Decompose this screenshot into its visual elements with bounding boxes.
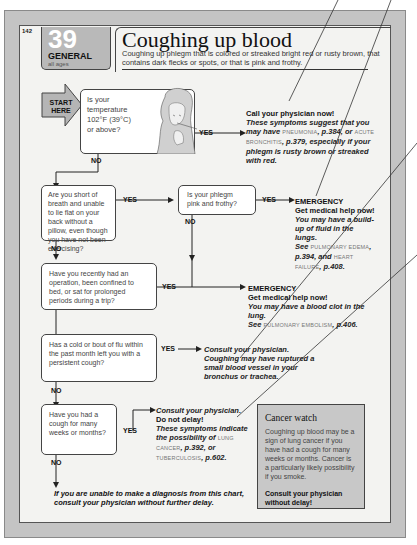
question-phlegm-pink: Is your phlegm pink and frothy? [178,185,256,215]
question-short-of-breath: Are you short of breath and unable to li… [41,185,116,241]
no-label: NO [51,387,62,394]
outcome-emergency-embolism: EMERGENCY Get medical help now! You may … [248,284,378,330]
cancer-watch-title: Cancer watch [265,413,357,423]
woman-thermometer-illustration [155,85,197,154]
cancer-watch-box: Cancer watch Coughing up blood may be a … [257,404,365,509]
yes-label: YES [161,345,175,352]
yes-label: YES [162,283,176,290]
outcome-ruptured-vessel: Consult your physician. Coughing may hav… [204,345,324,381]
cancer-watch-callout: Consult your physician without delay! [265,489,357,507]
yes-label: YES [123,196,137,203]
yes-label: YES [123,427,137,434]
cancer-watch-body: Coughing up blood may be a sign of lung … [265,427,357,481]
no-label: NO [185,218,196,225]
final-advice: If you are unable to make a diagnosis fr… [54,489,244,507]
no-label: NO [51,245,62,252]
question-recent-operation: Have you recently had an operation, been… [41,263,157,310]
yes-label: YES [199,129,213,136]
question-cold-flu: Has a cold or bout of flu within the pas… [41,334,157,382]
no-label: NO [91,157,102,164]
question-long-cough: Have you had a cough for many weeks or m… [41,404,117,455]
yes-label: YES [262,196,276,203]
no-label: NO [51,459,62,466]
outcome-lung-cancer-tb: Consult your physician. Do not delay! Th… [156,406,251,463]
outcome-emergency-edema: EMERGENCY Get medical help now! You may … [295,197,375,272]
outcome-call-physician: Call your physician now! These symptoms … [246,109,376,165]
